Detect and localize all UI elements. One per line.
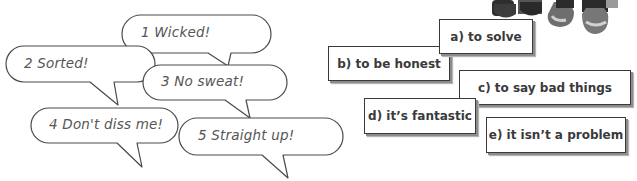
phrase-2: 2 Sorted! xyxy=(24,55,89,71)
meaning-card-d[interactable]: d) it’s fantastic xyxy=(364,98,476,134)
meaning-d-label: d) it’s fantastic xyxy=(368,109,472,123)
matching-exercise: 1 Wicked! 2 Sorted! 3 No sweat! 4 Don't … xyxy=(0,0,637,181)
meaning-c-label: c) to say bad things xyxy=(478,81,612,95)
meaning-e-label: e) it isn’t a problem xyxy=(489,128,623,142)
meaning-card-c[interactable]: c) to say bad things xyxy=(459,70,631,105)
phrase-4: 4 Don't diss me! xyxy=(49,116,163,132)
meaning-a-label: a) to solve xyxy=(450,30,521,44)
phrase-1: 1 Wicked! xyxy=(141,24,210,40)
phrase-5: 5 Straight up! xyxy=(198,127,294,143)
phrase-3: 3 No sweat! xyxy=(161,73,244,89)
meaning-card-b[interactable]: b) to be honest xyxy=(328,46,450,81)
meaning-card-e[interactable]: e) it isn’t a problem xyxy=(486,117,626,153)
meaning-card-a[interactable]: a) to solve xyxy=(439,19,533,54)
meaning-b-label: b) to be honest xyxy=(337,57,441,71)
